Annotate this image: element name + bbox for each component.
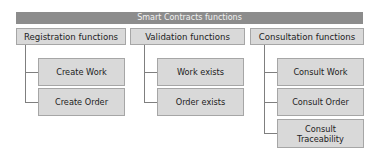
- category-consultation-functions: Consultation functions: [250, 28, 364, 45]
- root-node-smart-contracts-functions: Smart Contracts functions: [16, 12, 363, 24]
- node-create-work: Create Work: [38, 58, 125, 86]
- node-consult-traceability: Consult Traceability: [277, 119, 364, 148]
- connector-consult-traceability: [264, 133, 277, 134]
- connector-validation-vertical: [144, 45, 145, 103]
- node-order-exists: Order exists: [157, 88, 244, 116]
- connector-registration-vertical: [25, 45, 26, 103]
- connector-work-exists: [144, 72, 157, 73]
- category-registration-functions: Registration functions: [16, 28, 126, 45]
- node-consult-order: Consult Order: [277, 88, 364, 116]
- connector-consultation-vertical: [264, 45, 265, 133]
- connector-create-work: [25, 72, 38, 73]
- node-consult-work: Consult Work: [277, 58, 364, 86]
- node-create-order: Create Order: [38, 88, 125, 116]
- connector-order-exists: [144, 102, 157, 103]
- connector-create-order: [25, 102, 38, 103]
- category-validation-functions: Validation functions: [130, 28, 245, 45]
- connector-consult-order: [264, 102, 277, 103]
- node-work-exists: Work exists: [157, 58, 244, 86]
- connector-consult-work: [264, 72, 277, 73]
